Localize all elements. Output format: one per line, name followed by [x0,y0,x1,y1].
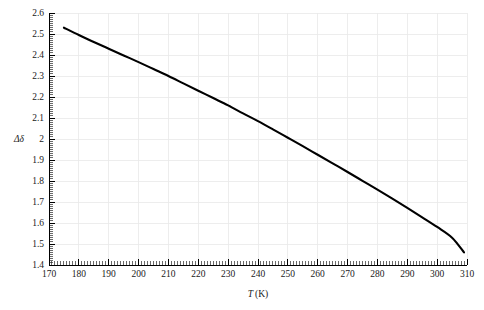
y-tick-label: 1.6 [32,218,44,228]
x-tick-label: 280 [370,269,385,279]
x-tick-label: 220 [191,269,206,279]
x-tick-labels: 1701801902002102202302402502602702802903… [42,269,475,279]
chart-figure: 1701801902002102202302402502602702802903… [0,0,484,310]
x-tick-label: 170 [42,269,57,279]
x-tick-label: 240 [251,269,266,279]
y-tick-label: 2.5 [32,29,44,39]
x-tick-label: 180 [72,269,87,279]
minor-ticks [49,15,464,265]
x-tick-label: 250 [281,269,296,279]
y-tick-label: 1.8 [32,176,44,186]
y-tick-label: 2.2 [32,92,44,102]
x-tick-label: 300 [430,269,445,279]
y-axis-title: Δδ [13,134,25,144]
x-axis-symbol: T [248,289,254,299]
data-curve-line [64,28,464,253]
y-tick-labels: 1.41.51.61.71.81.922.12.22.32.42.52.6 [32,8,44,270]
y-tick-label: 1.5 [32,239,44,249]
y-tick-label: 1.9 [32,155,44,165]
y-tick-label: 2.3 [32,71,44,81]
x-tick-label: 200 [131,269,146,279]
y-tick-label: 2.1 [32,113,44,123]
y-tick-label: 2 [39,134,44,144]
y-tick-label: 1.4 [32,260,44,270]
line-chart: 1701801902002102202302402502602702802903… [0,0,484,310]
x-axis-title: T(K) [248,289,269,300]
x-tick-label: 270 [340,269,355,279]
y-tick-label: 2.4 [32,50,44,60]
x-tick-label: 190 [102,269,117,279]
y-tick-label: 2.6 [32,8,44,18]
x-tick-label: 260 [311,269,326,279]
y-tick-label: 1.7 [32,197,44,207]
x-tick-label: 290 [400,269,415,279]
x-axis-unit: (K) [255,289,268,300]
data-series-group [64,28,464,253]
x-tick-label: 230 [221,269,236,279]
x-tick-label: 310 [460,269,475,279]
x-tick-label: 210 [161,269,176,279]
